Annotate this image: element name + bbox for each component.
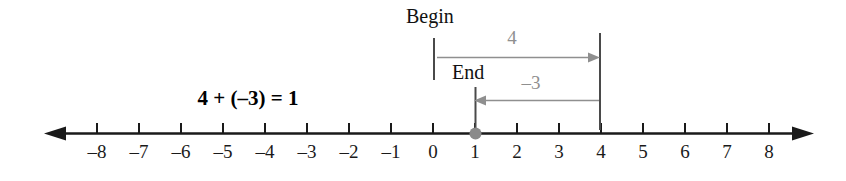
tick-label: –4 <box>256 142 275 161</box>
tick-label: –1 <box>382 142 401 161</box>
second-jump-arrow <box>474 96 599 106</box>
tick-label: –8 <box>88 142 107 161</box>
first-jump-arrowhead <box>588 53 600 63</box>
axis-right-arrowhead <box>792 127 814 141</box>
end-label: End <box>452 62 484 82</box>
number-line-graphic <box>0 0 846 181</box>
tick-label: 4 <box>596 142 606 161</box>
tick-label: 1 <box>470 142 480 161</box>
tick-label: 5 <box>638 142 648 161</box>
axis-group <box>44 127 814 141</box>
tick-label: –5 <box>214 142 233 161</box>
first-jump-label: 4 <box>507 28 517 47</box>
tick-label: –7 <box>130 142 149 161</box>
tick-label: 6 <box>680 142 690 161</box>
number-line-figure: 4 + (–3) = 1 Begin End 4 –3 –8 –7 –6 –5 … <box>0 0 846 181</box>
tick-label: 7 <box>722 142 732 161</box>
tick-label: 3 <box>554 142 564 161</box>
tick-label: –6 <box>172 142 191 161</box>
result-point-marker <box>470 128 482 140</box>
tick-label: 8 <box>764 142 774 161</box>
tick-label: 0 <box>428 142 438 161</box>
tick-label: 2 <box>512 142 522 161</box>
tick-label: –2 <box>340 142 359 161</box>
second-jump-label: –3 <box>522 73 541 92</box>
begin-label: Begin <box>406 6 454 26</box>
tick-label: –3 <box>298 142 317 161</box>
axis-left-arrowhead <box>44 127 66 141</box>
equation-text: 4 + (–3) = 1 <box>198 88 299 109</box>
